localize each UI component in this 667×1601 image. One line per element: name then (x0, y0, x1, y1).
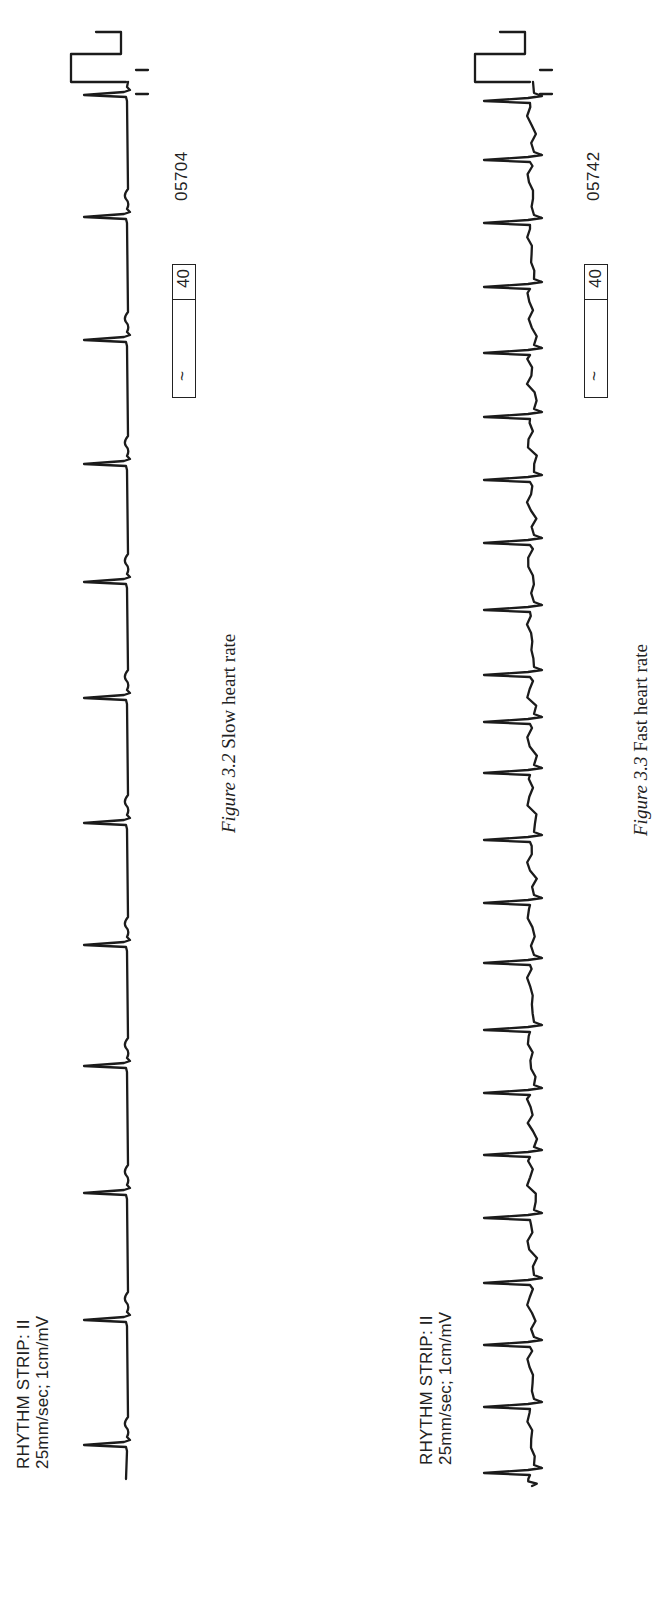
rate-box-value: 40 (586, 269, 606, 288)
rate-box-fast: ~ 40 (584, 264, 608, 398)
tilde-symbol: ~ (585, 371, 605, 381)
strip-id-fast: 05742 (584, 151, 604, 201)
ecg-trace-fast (0, 0, 667, 1601)
strip-label-fast: RHYTHM STRIP: II 25mm/sec; 1cm/mV (417, 1312, 455, 1465)
figure-number: Figure 3.3 (630, 756, 651, 836)
figure-title: Fast heart rate (630, 644, 651, 752)
figure-caption-fast: Figure 3.3 Fast heart rate (630, 644, 652, 836)
strip-speed-label: 25mm/sec; 1cm/mV (436, 1312, 455, 1465)
rate-box-divider (585, 299, 607, 300)
strip-lead-label: RHYTHM STRIP: II (417, 1312, 436, 1465)
document-page: RHYTHM STRIP: II 25mm/sec; 1cm/mV ~ 40 0… (0, 0, 667, 1601)
